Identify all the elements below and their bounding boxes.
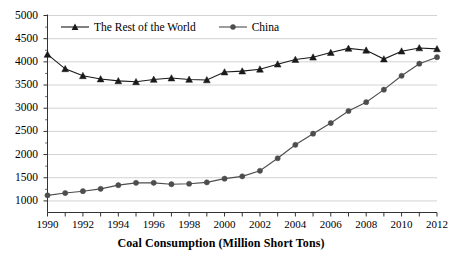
- x-tick-label: 2010: [385, 219, 419, 230]
- legend-circle-icon: [218, 21, 248, 33]
- y-tick-label: 1000: [0, 195, 38, 206]
- x-tick-label: 1998: [172, 219, 206, 230]
- y-tick-label: 1500: [0, 172, 38, 183]
- axis-ticks: [44, 16, 438, 217]
- gridlines: [48, 16, 438, 201]
- x-tick-label: 1992: [66, 219, 100, 230]
- x-axis-title: Coal Consumption (Million Short Tons): [0, 236, 442, 251]
- y-tick-label: 5000: [0, 10, 38, 21]
- y-tick-label: 3500: [0, 79, 38, 90]
- x-tick-label: 2000: [208, 219, 242, 230]
- x-tick-label: 1994: [101, 219, 135, 230]
- y-tick-label: 4500: [0, 33, 38, 44]
- x-tick-label: 2012: [420, 219, 452, 230]
- legend-item-rest-of-world: The Rest of the World: [60, 21, 196, 33]
- legend-item-china: China: [218, 21, 279, 33]
- legend-label: China: [252, 21, 279, 33]
- x-tick-label: 1990: [31, 219, 65, 230]
- x-tick-label: 2002: [243, 219, 277, 230]
- y-tick-label: 2500: [0, 125, 38, 136]
- x-tick-label: 2008: [349, 219, 383, 230]
- y-tick-label: 2000: [0, 149, 38, 160]
- data-series: [44, 45, 440, 198]
- legend-label: The Rest of the World: [94, 21, 196, 33]
- x-tick-label: 2004: [278, 219, 312, 230]
- x-tick-label: 2006: [314, 219, 348, 230]
- y-tick-label: 4000: [0, 56, 38, 67]
- axis-lines: [48, 15, 438, 213]
- x-tick-label: 1996: [137, 219, 171, 230]
- y-tick-label: 3000: [0, 102, 38, 113]
- legend-triangle-icon: [60, 21, 90, 33]
- chart-legend: The Rest of the WorldChina: [60, 21, 279, 33]
